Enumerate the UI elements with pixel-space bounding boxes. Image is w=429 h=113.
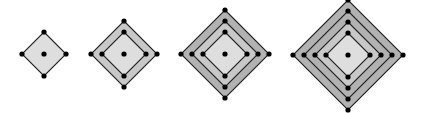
- vertex-dot: [222, 95, 227, 100]
- vertex-dot: [301, 52, 306, 57]
- vertex-dot: [154, 51, 159, 56]
- vertex-dot: [345, 8, 350, 13]
- vertex-dot: [323, 52, 328, 57]
- diamond-figure-level-4: [290, 0, 405, 113]
- vertex-dot: [266, 51, 271, 56]
- vertex-dot: [312, 52, 317, 57]
- vertex-dot: [290, 52, 295, 57]
- vertex-dot: [378, 52, 383, 57]
- vertex-dot: [345, 74, 350, 79]
- vertex-dot: [121, 73, 126, 78]
- vertex-dot: [41, 29, 46, 34]
- vertex-dot: [200, 51, 205, 56]
- vertex-dot: [345, 96, 350, 101]
- vertex-dot: [121, 29, 126, 34]
- center-dot: [121, 51, 126, 56]
- vertex-dot: [400, 52, 405, 57]
- vertex-dot: [41, 73, 46, 78]
- vertex-dot: [121, 18, 126, 23]
- vertex-dot: [19, 51, 24, 56]
- vertex-dot: [99, 51, 104, 56]
- center-dot: [41, 51, 46, 56]
- vertex-dot: [88, 51, 93, 56]
- diamond-figure-level-3: [178, 7, 271, 100]
- vertex-dot: [189, 51, 194, 56]
- diamond-figure-level-2: [88, 18, 159, 89]
- vertex-dot: [121, 84, 126, 89]
- diamond-figure-level-1: [19, 29, 68, 78]
- center-dot: [345, 52, 350, 57]
- vertex-dot: [244, 51, 249, 56]
- diagram-canvas: [0, 0, 429, 113]
- vertex-dot: [367, 52, 372, 57]
- vertex-dot: [222, 7, 227, 12]
- vertex-dot: [222, 18, 227, 23]
- vertex-dot: [389, 52, 394, 57]
- nested-diamonds-diagram: [0, 0, 429, 113]
- vertex-dot: [222, 29, 227, 34]
- vertex-dot: [345, 30, 350, 35]
- vertex-dot: [222, 73, 227, 78]
- vertex-dot: [255, 51, 260, 56]
- vertex-dot: [63, 51, 68, 56]
- vertex-dot: [345, 85, 350, 90]
- vertex-dot: [345, 107, 350, 112]
- vertex-dot: [222, 84, 227, 89]
- vertex-dot: [178, 51, 183, 56]
- vertex-dot: [345, 19, 350, 24]
- vertex-dot: [143, 51, 148, 56]
- center-dot: [222, 51, 227, 56]
